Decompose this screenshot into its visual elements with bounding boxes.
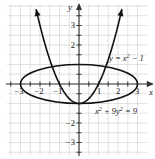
y-tick-label: 2 — [71, 40, 75, 50]
x-tick-label: 1 — [97, 86, 101, 96]
ellipse-equation-label: x2 + 9y2 = 9 — [94, 106, 138, 116]
y-axis-label: y — [67, 2, 72, 12]
axes — [6, 6, 150, 156]
x-tick-label: −3 — [14, 86, 23, 96]
x-tick-label: 3 — [135, 86, 139, 96]
graph: y x −3 −2 −1 1 2 3 3 2 −2 −3 y = x2 − 1 … — [0, 0, 155, 159]
x-tick-label: −2 — [34, 86, 43, 96]
y-tick-label: −3 — [66, 137, 75, 147]
parabola-equation-label: y = x2 − 1 — [108, 53, 144, 63]
y-axis-arrow-icon — [76, 3, 82, 10]
y-tick-label: −2 — [66, 118, 75, 128]
y-tick-label: 3 — [71, 20, 75, 30]
x-axis-label: x — [148, 87, 153, 97]
x-tick-label: −1 — [53, 86, 62, 96]
x-tick-label: 2 — [116, 86, 120, 96]
